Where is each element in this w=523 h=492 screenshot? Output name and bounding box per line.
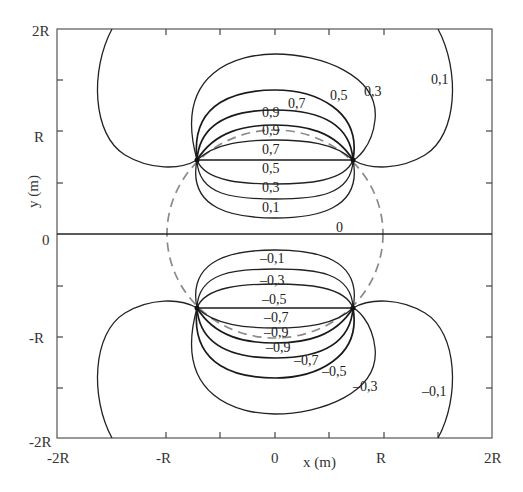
pole-upper-left <box>195 158 200 163</box>
contour-label: 0,3 <box>364 84 382 99</box>
contour-label: 0,3 <box>262 180 280 195</box>
contour-label: 0,5 <box>330 88 348 103</box>
contour-labels-upper: 0,9 0,9 0,7 0,5 0,3 0,1 0,7 0,5 0,3 0,1 … <box>262 72 449 235</box>
y-tick-label: -R <box>29 330 44 346</box>
x-tick-label: R <box>376 450 386 466</box>
contour-label: –0,9 <box>263 325 289 340</box>
y-tick-label: -2R <box>29 434 52 450</box>
y-tick-label: 2R <box>32 23 50 39</box>
x-tick-label: 2R <box>484 450 502 466</box>
contour-label: –0,1 <box>421 384 447 399</box>
contour-chart: 0,9 0,9 0,7 0,5 0,3 0,1 0,7 0,5 0,3 0,1 … <box>0 0 523 492</box>
contour-label: 0,5 <box>262 161 280 176</box>
y-tick-label: R <box>34 129 44 145</box>
contour-label: 0,9 <box>262 123 280 138</box>
x-tick-labels: -2R -R 0 R 2R <box>47 450 502 466</box>
contour-label: –0,1 <box>259 251 285 266</box>
pole-lower-right <box>351 306 356 311</box>
contour-label: 0,1 <box>262 200 280 215</box>
x-tick-label: -R <box>156 450 171 466</box>
contour-label: –0,9 <box>265 340 291 355</box>
contour-label: –0,5 <box>321 364 347 379</box>
contour-label: 0,7 <box>288 96 306 111</box>
contour-label: 0,9 <box>262 105 280 120</box>
contour-label: –0,3 <box>259 273 285 288</box>
contour-label: –0,7 <box>263 310 289 325</box>
contour-label: –0,7 <box>293 353 319 368</box>
x-tick-label: 0 <box>271 450 279 466</box>
x-tick-label: -2R <box>47 450 70 466</box>
y-axis-label: y (m) <box>25 175 42 208</box>
contour-label: –0,3 <box>352 379 378 394</box>
pole-upper-right <box>351 158 356 163</box>
contour-label: 0,7 <box>262 142 280 157</box>
contour-label: 0,1 <box>431 72 449 87</box>
pole-lower-left <box>195 306 200 311</box>
y-tick-label: 0 <box>42 232 50 248</box>
x-axis-label: x (m) <box>303 454 336 471</box>
y-tick-labels: 2R R 0 -R -2R <box>29 23 52 450</box>
contour-label-zero: 0 <box>336 220 343 235</box>
contour-label: –0,5 <box>261 292 287 307</box>
